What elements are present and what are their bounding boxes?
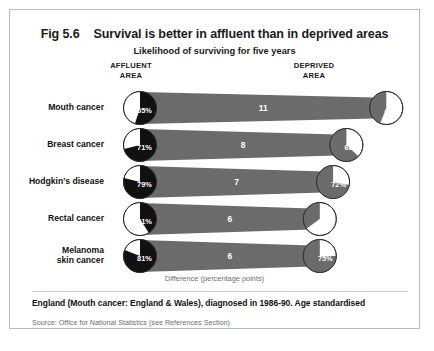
- row-label: Hodgkin's disease: [10, 176, 104, 186]
- deprived-percent-label: 35%: [318, 217, 333, 226]
- deprived-head-line2: AREA: [269, 71, 359, 81]
- row-label-line1: Breast cancer: [10, 139, 104, 149]
- difference-value: 6: [228, 251, 233, 261]
- row-graphic: 641%35%: [108, 201, 408, 237]
- figure-note: England (Mouth cancer: England & Wales),…: [32, 298, 365, 308]
- row-label-line1: Hodgkin's disease: [10, 176, 104, 186]
- row-graphic: 1155%44%: [108, 90, 408, 126]
- figure-header: Fig 5.6Survival is better in affluent th…: [10, 24, 419, 42]
- row-label: Breast cancer: [10, 139, 104, 149]
- column-header-deprived: DEPRIVED AREA: [269, 61, 359, 80]
- figure-title: Survival is better in affluent than in d…: [94, 27, 389, 41]
- difference-value: 6: [228, 214, 233, 224]
- divider: [32, 291, 408, 292]
- difference-axis-caption: Difference (percentage points): [10, 274, 419, 283]
- deprived-percent-label: 75%: [318, 254, 333, 263]
- figure-number: Fig 5.6: [41, 27, 80, 41]
- row-label-line1: Melanoma: [10, 245, 104, 255]
- difference-value: 8: [241, 140, 246, 150]
- row-label-line1: Mouth cancer: [10, 102, 104, 112]
- difference-value: 7: [234, 177, 239, 187]
- affluent-head-line2: AREA: [86, 71, 176, 81]
- row-graphic: 871%63%: [108, 127, 408, 163]
- row-label: Rectal cancer: [10, 213, 104, 223]
- affluent-percent-label: 41%: [137, 217, 152, 226]
- affluent-percent-label: 55%: [137, 106, 152, 115]
- row-label-line1: Rectal cancer: [10, 213, 104, 223]
- deprived-percent-label: 72%: [331, 180, 346, 189]
- figure-source: Source: Office for National Statistics (…: [32, 318, 230, 327]
- row-label: Melanomaskin cancer: [10, 245, 104, 265]
- deprived-percent-label: 63%: [345, 143, 360, 152]
- deprived-percent-label: 44%: [384, 106, 399, 115]
- affluent-percent-label: 79%: [137, 180, 152, 189]
- figure-frame: Fig 5.6Survival is better in affluent th…: [9, 9, 420, 329]
- affluent-percent-label: 71%: [137, 143, 152, 152]
- row-graphic: 779%72%: [108, 164, 408, 200]
- difference-value: 11: [259, 103, 268, 113]
- chart-subtitle: Likelihood of surviving for five years: [10, 46, 419, 56]
- row-label-line2: skin cancer: [10, 255, 104, 265]
- row-label: Mouth cancer: [10, 102, 104, 112]
- row-graphic: 681%75%: [108, 238, 408, 274]
- affluent-head-line1: AFFLUENT: [86, 61, 176, 71]
- column-header-affluent: AFFLUENT AREA: [86, 61, 176, 80]
- deprived-head-line1: DEPRIVED: [269, 61, 359, 71]
- affluent-percent-label: 81%: [137, 254, 152, 263]
- chart-plot-area: Mouth cancer1155%44%Breast cancer871%63%…: [10, 86, 419, 271]
